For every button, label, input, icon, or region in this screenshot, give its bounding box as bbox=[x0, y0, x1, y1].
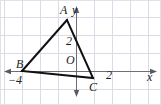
x-axis-label: x bbox=[147, 71, 152, 83]
coordinate-plane-figure: A y 2 O B −4 C 2 x bbox=[0, 0, 161, 105]
vertex-c-point bbox=[92, 77, 94, 79]
graph-canvas bbox=[0, 0, 161, 105]
vertex-label-b: B bbox=[16, 58, 23, 70]
vertex-a-point bbox=[66, 19, 68, 21]
y-axis-label: y bbox=[72, 4, 77, 16]
vertex-label-a: A bbox=[60, 4, 67, 16]
origin-label: O bbox=[66, 54, 75, 66]
vertex-label-c: C bbox=[89, 81, 97, 93]
y-axis-tick-label-2: 2 bbox=[66, 35, 72, 47]
x-axis-tick-label-2: 2 bbox=[106, 69, 112, 81]
x-axis-tick-label-minus4: −4 bbox=[8, 74, 22, 86]
